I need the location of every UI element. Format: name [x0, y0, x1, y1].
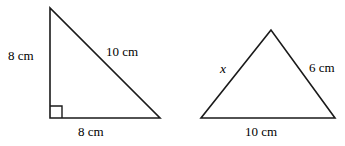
label-right-triangle-right-side: 6 cm — [309, 61, 335, 74]
right-triangle-outline — [50, 8, 160, 118]
figure-canvas — [0, 0, 345, 146]
label-left-triangle-base: 8 cm — [78, 125, 104, 138]
label-left-triangle-hypotenuse: 10 cm — [106, 45, 138, 58]
right-triangle-shape — [50, 8, 160, 118]
label-right-triangle-base: 10 cm — [245, 125, 277, 138]
label-left-triangle-vertical-side: 8 cm — [8, 49, 34, 62]
geometry-figure: 8 cm 10 cm 8 cm x 6 cm 10 cm — [0, 0, 345, 146]
label-right-triangle-unknown-side: x — [220, 62, 226, 75]
right-angle-marker-icon — [50, 106, 62, 118]
